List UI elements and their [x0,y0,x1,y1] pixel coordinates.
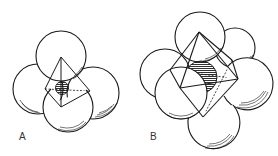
sphere-b-right [224,58,273,110]
interstitial-sphere-a [56,82,69,95]
figure-label-b: B [150,132,157,142]
figure-a-tetrahedral [13,31,119,132]
figure-b-octahedral [140,12,273,149]
figure-label-a: A [19,132,26,142]
packing-diagram [0,0,278,156]
sphere-b-front-left [155,67,207,119]
